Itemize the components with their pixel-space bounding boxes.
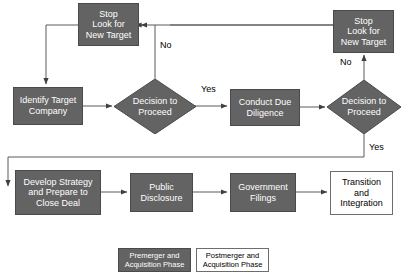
legend-postmerger-phase: Postmerger andAcquisition Phase xyxy=(196,248,269,272)
legend-premerger-line1: Premerger and xyxy=(129,251,179,260)
edge-label-yes-one: Yes xyxy=(201,84,216,94)
node-develop-strategy-close-deal[interactable]: Develop Strategyand Prepare toClose Deal xyxy=(15,170,101,215)
legend-premerger-phase: Premerger andAcquisition Phase xyxy=(118,248,191,272)
node-identify-line1: Identify Target xyxy=(20,95,76,105)
node-stop-left-line2: Look for xyxy=(92,19,125,29)
node-conduct-due-diligence[interactable]: Conduct DueDiligence xyxy=(230,89,300,126)
node-government-filings-line1: Government xyxy=(238,182,288,192)
node-develop-strategy-line1: Develop Strategy xyxy=(23,177,92,187)
legend-postmerger-line1: Postmerger and xyxy=(206,251,259,260)
node-transition-and-integration[interactable]: TransitionandIntegration xyxy=(330,171,393,215)
flowchart-canvas: StopLook forNew Target Identify TargetCo… xyxy=(0,0,411,277)
node-transition-line2: and xyxy=(354,188,369,198)
decision-two-diamond-shape xyxy=(327,80,401,134)
node-stop-left-label: StopLook forNew Target xyxy=(84,9,133,41)
node-due-diligence-label: Conduct DueDiligence xyxy=(237,97,294,118)
node-transition-line3: Integration xyxy=(340,198,383,208)
node-public-disclosure-line1: Public xyxy=(149,182,174,192)
legend-premerger-line2: Acquisition Phase xyxy=(125,260,185,269)
node-stop-left-line3: New Target xyxy=(86,30,131,40)
node-due-diligence-line2: Diligence xyxy=(246,108,283,118)
node-public-disclosure[interactable]: PublicDisclosure xyxy=(130,173,193,212)
node-stop-right-label: StopLook forNew Target xyxy=(339,16,388,48)
decision-one-diamond-shape xyxy=(114,79,196,134)
edge-label-yes-two: Yes xyxy=(369,142,384,152)
node-transition-label: TransitionandIntegration xyxy=(338,177,385,209)
node-stop-right-line3: New Target xyxy=(341,37,386,47)
node-develop-strategy-line3: Close Deal xyxy=(36,198,80,208)
node-identify-target-label: Identify TargetCompany xyxy=(18,95,78,116)
node-stop-look-for-new-target-left[interactable]: StopLook forNew Target xyxy=(78,3,139,46)
edge-decision-one-no xyxy=(141,25,155,79)
node-public-disclosure-label: PublicDisclosure xyxy=(138,182,184,203)
node-decision-to-proceed-two[interactable]: Decision toProceed xyxy=(327,80,401,134)
node-develop-strategy-line2: and Prepare to xyxy=(28,187,88,197)
node-identify-line2: Company xyxy=(29,106,68,116)
legend-postmerger-label: Postmerger andAcquisition Phase xyxy=(203,251,263,270)
node-stop-right-line2: Look for xyxy=(347,26,380,36)
node-stop-right-line1: Stop xyxy=(354,16,373,26)
node-government-filings-line2: Filings xyxy=(250,193,276,203)
node-identify-target-company[interactable]: Identify TargetCompany xyxy=(13,87,83,125)
node-decision-to-proceed-one[interactable]: Decision toProceed xyxy=(114,79,196,134)
legend-postmerger-line2: Acquisition Phase xyxy=(203,260,263,269)
node-public-disclosure-line2: Disclosure xyxy=(140,193,182,203)
node-develop-strategy-label: Develop Strategyand Prepare toClose Deal xyxy=(21,177,94,209)
node-government-filings-label: GovernmentFilings xyxy=(236,182,290,203)
node-transition-line1: Transition xyxy=(342,177,381,187)
node-stop-look-for-new-target-right[interactable]: StopLook forNew Target xyxy=(333,10,394,53)
edge-label-no-two: No xyxy=(340,57,352,67)
node-government-filings[interactable]: GovernmentFilings xyxy=(230,173,296,212)
node-due-diligence-line1: Conduct Due xyxy=(239,97,292,107)
node-stop-left-line1: Stop xyxy=(99,9,118,19)
edge-stop-left-to-identify xyxy=(46,25,78,84)
legend-premerger-label: Premerger andAcquisition Phase xyxy=(125,251,185,270)
edge-label-no-one: No xyxy=(160,40,172,50)
